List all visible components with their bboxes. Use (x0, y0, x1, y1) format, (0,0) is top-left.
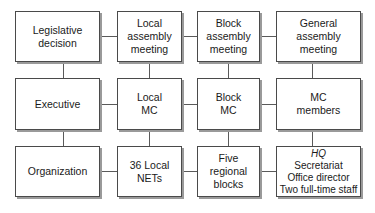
local-assembly-meeting-box: Local assembly meeting (117, 11, 182, 62)
connector (100, 171, 117, 172)
box-label-hq: HQ (311, 148, 326, 160)
general-assembly-meeting-box: General assembly meeting (276, 11, 361, 62)
box-label: Two full-time staff (280, 184, 358, 196)
connector (182, 36, 197, 37)
box-label: blocks (214, 178, 244, 191)
legislative-decision-box: Legislative decision (15, 11, 100, 62)
box-label: meeting (300, 43, 337, 56)
box-label: Legislative (33, 24, 83, 37)
connector (228, 130, 229, 146)
box-label: Office director (287, 172, 349, 184)
box-label: 36 Local (130, 159, 170, 172)
connector (182, 171, 197, 172)
regional-blocks-box: Five regional blocks (197, 146, 260, 197)
connector (63, 62, 64, 78)
box-label: meeting (210, 43, 247, 56)
box-label: assembly (127, 30, 171, 43)
connector (100, 104, 117, 105)
mc-members-box: MC members (276, 78, 361, 130)
box-label: MC (220, 104, 236, 117)
connector (260, 36, 276, 37)
box-label: regional (210, 165, 247, 178)
box-label: NETs (137, 172, 162, 185)
box-label: Local (137, 91, 162, 104)
block-assembly-meeting-box: Block assembly meeting (197, 11, 260, 62)
organization-box: Organization (15, 146, 100, 197)
connector (149, 62, 150, 78)
connector (100, 36, 117, 37)
connector (63, 130, 64, 146)
box-label: decision (38, 37, 77, 50)
box-label: Secretariat (294, 160, 342, 172)
box-label: MC (141, 104, 157, 117)
box-label: MC (310, 91, 326, 104)
connector (260, 171, 276, 172)
connector (182, 104, 197, 105)
hq-box: HQ Secretariat Office director Two full-… (276, 146, 361, 197)
box-label: General (300, 17, 337, 30)
box-label: assembly (206, 30, 250, 43)
box-label: Executive (35, 98, 81, 111)
box-label: members (297, 104, 341, 117)
connector (149, 130, 150, 146)
box-label: Block (216, 17, 242, 30)
box-label: Organization (28, 165, 88, 178)
connector (260, 104, 276, 105)
box-label: assembly (296, 30, 340, 43)
org-structure-diagram: Legislative decision Local assembly meet… (0, 0, 375, 213)
box-label: meeting (131, 43, 168, 56)
local-mc-box: Local MC (117, 78, 182, 130)
box-label: Local (137, 17, 162, 30)
block-mc-box: Block MC (197, 78, 260, 130)
connector (312, 62, 313, 78)
connector (312, 130, 313, 146)
local-nets-box: 36 Local NETs (117, 146, 182, 197)
box-label: Five (219, 152, 239, 165)
box-label: Block (216, 91, 242, 104)
executive-box: Executive (15, 78, 100, 130)
connector (228, 62, 229, 78)
